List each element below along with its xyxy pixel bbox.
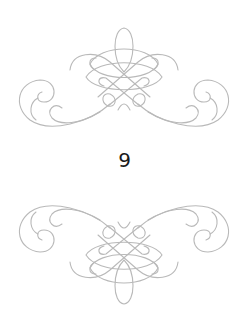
page-number: 9 — [0, 146, 249, 174]
flourish-ornament-icon — [0, 190, 249, 310]
flourish-ornament-icon — [0, 22, 249, 142]
